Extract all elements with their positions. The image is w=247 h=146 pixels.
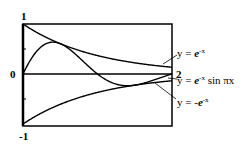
y-tick-label-1: 1 (21, 10, 27, 22)
y-tick-label-neg1: -1 (19, 130, 28, 142)
curve-neg-exp (23, 81, 172, 124)
leader-line-neg-exp (155, 83, 176, 99)
chart: 1 0 -1 2 y = e-x y = e-x sin πx y = -e-x (0, 0, 247, 146)
legend-label-damped-sine: y = e-x sin πx (177, 74, 235, 86)
leader-line-exp (163, 55, 177, 64)
legend-label-neg-exp: y = -e-x (177, 96, 209, 108)
y-tick-label-0: 0 (10, 68, 16, 80)
legend: y = e-x y = e-x sin πx y = -e-x (177, 47, 235, 108)
curve-damped-sine (23, 42, 172, 86)
curve-exp (23, 24, 172, 67)
legend-label-exp: y = e-x (177, 47, 205, 59)
